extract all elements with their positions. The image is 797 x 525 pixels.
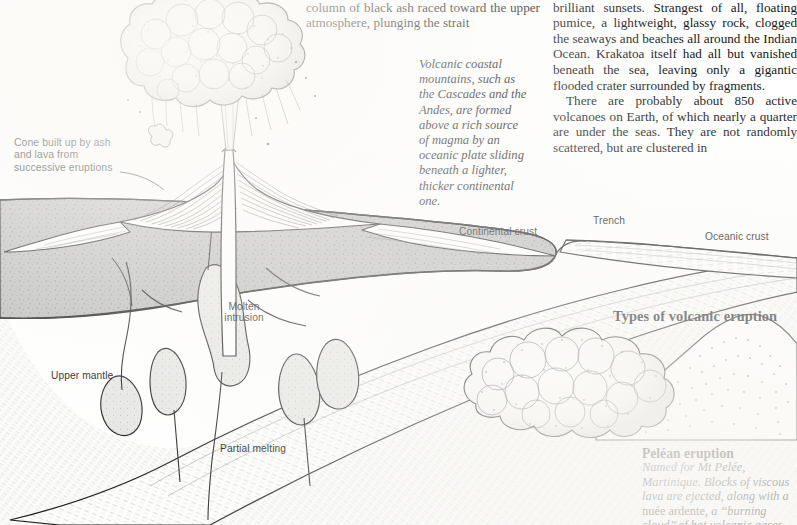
paragraph: There are probably about 850 active volc… [553,93,797,155]
paragraph: the greatest paroxysms ever recorded. A … [306,0,540,31]
pelean-text-part1: Named for Mt Pelée, Martinique. Blocks o… [642,460,789,503]
label-continental-crust: Continental crust [459,226,537,238]
caption-volcanic-coastal: Volcanic coastal mountains, such as the … [419,57,527,209]
paragraph: into the stratosphere, created abnormall… [553,0,797,93]
label-trench: Trench [593,215,625,227]
caption-pelean-eruption: Named for Mt Pelée, Martinique. Blocks o… [642,460,797,525]
label-molten-intrusion: Molten intrusion [218,301,270,324]
encyclopedia-page: the greatest paroxysms ever recorded. A … [0,0,797,525]
body-column-middle: the greatest paroxysms ever recorded. A … [306,0,540,31]
label-partial-melting: Partial melting [220,443,286,455]
label-oceanic-crust: Oceanic crust [705,231,769,243]
label-upper-mantle: Upper mantle [51,370,113,382]
pelean-text-roman: nuée ardente, [642,504,708,518]
label-cone: Cone built up by ash and lava from succe… [14,137,119,174]
body-column-right: into the stratosphere, created abnormall… [553,0,797,156]
heading-types-of-volcanic-eruption: Types of volcanic eruption [613,308,777,325]
